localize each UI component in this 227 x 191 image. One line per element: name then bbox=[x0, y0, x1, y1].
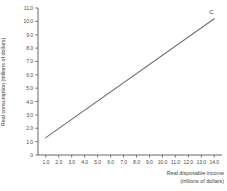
consumption-function-chart: Real consumption (trillions of dollars) … bbox=[0, 0, 227, 191]
y-tick-label: 7.0 bbox=[8, 58, 33, 64]
x-tick-label: 1.0 bbox=[42, 159, 49, 165]
y-tick-label: 3.0 bbox=[8, 112, 33, 118]
x-axis-title-line-1: Real disposable income bbox=[167, 170, 224, 176]
series-line-c bbox=[46, 19, 214, 138]
y-tick-label: 2.0 bbox=[8, 125, 33, 131]
x-tick-label: 14.0 bbox=[209, 159, 219, 165]
y-tick-label: 8.0 bbox=[8, 45, 33, 51]
x-tick-label: 5.0 bbox=[94, 159, 101, 165]
y-tick-label: 9.0 bbox=[8, 32, 33, 38]
x-axis-title-line-2: (trillions of dollars) bbox=[180, 178, 224, 184]
x-tick-label: 10.0 bbox=[158, 159, 168, 165]
x-tick-label: 3.0 bbox=[68, 159, 75, 165]
y-tick-label: 1.0 bbox=[8, 139, 33, 145]
y-tick-label: 0 bbox=[8, 152, 33, 158]
x-tick-label: 9.0 bbox=[146, 159, 153, 165]
x-tick-label: 11.0 bbox=[171, 159, 180, 165]
x-tick-label: 7.0 bbox=[120, 159, 127, 165]
y-axis-title: Real consumption (trillions of dollars) bbox=[0, 37, 6, 125]
y-tick-label: 6.0 bbox=[8, 72, 33, 78]
y-tick-label: 10.0 bbox=[8, 18, 33, 24]
x-tick-label: 13.0 bbox=[197, 159, 207, 165]
y-tick-label: 4.0 bbox=[8, 99, 33, 105]
series-label-c: C bbox=[209, 9, 213, 15]
y-tick-label: 11.0 bbox=[8, 5, 33, 11]
x-tick-label: 8.0 bbox=[133, 159, 140, 165]
y-tick-label: 5.0 bbox=[8, 85, 33, 91]
x-tick-label: 6.0 bbox=[107, 159, 114, 165]
x-tick-label: 2.0 bbox=[55, 159, 62, 165]
x-tick-label: 4.0 bbox=[81, 159, 88, 165]
x-tick-label: 12.0 bbox=[184, 159, 194, 165]
